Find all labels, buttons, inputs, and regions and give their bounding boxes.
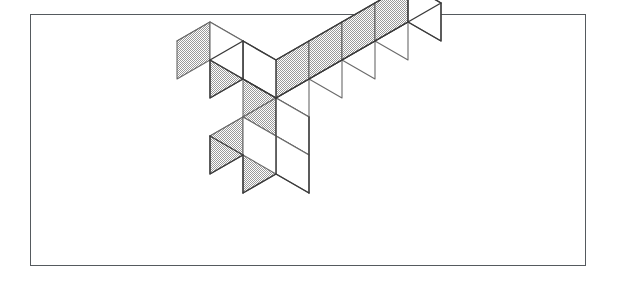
polycube-svg	[0, 0, 617, 281]
cube-face	[177, 22, 210, 79]
cube-solid	[177, 0, 441, 193]
screenshot-canvas	[0, 0, 617, 281]
polycube-figure	[0, 0, 617, 281]
